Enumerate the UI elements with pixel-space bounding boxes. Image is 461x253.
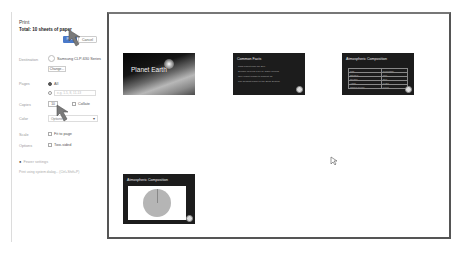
pages-label: Pages [19,82,30,86]
options-label: Options [19,144,32,148]
pointer-arrow-icon [67,28,89,50]
bullet-icon: ● [19,159,21,164]
pie-chart [128,186,186,220]
pages-range-input[interactable]: e.g. 1-5, 8, 11-13 [54,90,96,96]
fit-to-page-checkbox[interactable] [48,132,52,136]
slide-bullet: Surface covered 71% by water oceans [238,70,279,73]
composition-table: GasPercentage Nitrogen78% Oxygen21% Argo… [348,68,408,89]
slide-title: Atmospheric Composition [127,178,168,182]
destination-label: Destination [19,58,38,62]
mouse-cursor-icon [330,156,338,166]
pages-all-label: All [54,82,58,86]
print-settings-panel: Print Total: 10 sheets of paper Print Ca… [11,12,107,242]
pointer-arrow-icon [55,103,77,125]
fit-to-page-label: Fit to page [54,132,72,136]
slide-thumbnail-1: Planet Earth [123,53,195,95]
change-destination-button[interactable]: Change... [48,66,66,72]
two-sided-label: Two-sided [54,143,71,147]
slide-bullet: Third planet from the Sun [238,65,265,68]
chevron-down-icon: ▾ [93,116,95,122]
print-preview-area: Planet Earth Common Facts Third planet f… [107,12,451,239]
slide-thumbnail-4: Atmospheric Composition [123,174,195,224]
more-settings-toggle[interactable]: ● Fewer settings [19,159,48,164]
collate-label: Collate [78,102,90,106]
print-title: Print [19,19,29,25]
destination-value[interactable]: Samsung CLP-630 Series [48,55,101,62]
logo-icon [296,86,303,93]
destination-printer-name: Samsung CLP-630 Series [57,57,101,61]
slide-thumbnail-3: Atmospheric Composition GasPercentage Ni… [342,53,414,95]
scale-label: Scale [19,133,29,137]
slide-title: Planet Earth [131,66,167,73]
pages-range-option[interactable]: e.g. 1-5, 8, 11-13 [48,90,96,96]
copies-label: Copies [19,103,31,107]
fit-to-page-option[interactable]: Fit to page [48,132,72,136]
logo-icon [405,86,412,93]
printer-icon [48,55,55,62]
pie-divider [157,189,158,203]
radio-off-icon[interactable] [48,91,52,95]
slide-title: Atmospheric Composition [346,57,387,61]
slide-title: Common Facts [237,57,261,61]
sheet-total: Total: 10 sheets of paper [19,27,72,32]
two-sided-checkbox[interactable] [48,143,52,147]
two-sided-option[interactable]: Two-sided [48,143,71,147]
more-settings-label: Fewer settings [23,160,48,164]
system-dialog-link[interactable]: Print using system dialog... (Ctrl+Shift… [19,170,79,174]
slide-bullet: Only planet known to support life [238,75,273,78]
slide-bullet: The densest planet in the Solar System [238,80,280,83]
slide-thumbnail-2: Common Facts Third planet from the Sun S… [233,53,305,95]
logo-icon [186,215,193,222]
radio-on-icon[interactable] [48,82,52,86]
pages-all-option[interactable]: All [48,82,58,86]
color-label: Color [19,117,28,121]
